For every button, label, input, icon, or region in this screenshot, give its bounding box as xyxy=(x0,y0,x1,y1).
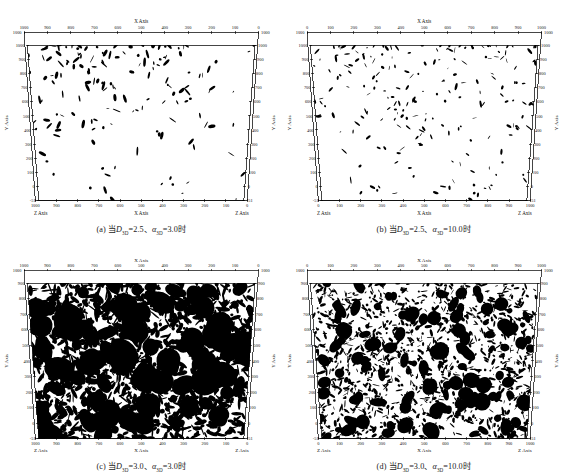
svg-text:700: 700 xyxy=(20,311,27,316)
svg-text:700: 700 xyxy=(467,263,474,268)
svg-text:100: 100 xyxy=(27,170,34,175)
svg-text:600: 600 xyxy=(115,263,122,268)
svg-text:800: 800 xyxy=(484,440,491,445)
svg-text:200: 200 xyxy=(202,203,209,208)
svg-text:100: 100 xyxy=(27,405,34,410)
svg-text:Y Axis: Y Axis xyxy=(270,115,276,130)
svg-text:700: 700 xyxy=(91,263,98,268)
svg-text:-51: -51 xyxy=(529,436,535,441)
svg-text:500: 500 xyxy=(138,263,145,268)
svg-text:1000: 1000 xyxy=(541,43,550,48)
svg-text:1000: 1000 xyxy=(261,30,270,35)
svg-text:Y Axis: Y Axis xyxy=(271,353,276,367)
plot-b: 01002003004005006007008009001000X Axis01… xyxy=(283,0,565,238)
panel-caption-b: (b) 当D3D=2.5、α3D=10.0时 xyxy=(283,222,565,236)
svg-text:700: 700 xyxy=(538,85,545,90)
svg-text:300: 300 xyxy=(533,142,540,147)
svg-text:X Axis: X Axis xyxy=(134,18,148,24)
svg-text:500: 500 xyxy=(253,113,260,118)
svg-text:X Axis: X Axis xyxy=(417,210,431,216)
svg-text:0: 0 xyxy=(317,440,320,445)
svg-text:Z Axis: Z Axis xyxy=(518,210,531,216)
svg-text:100: 100 xyxy=(249,170,256,175)
svg-text:100: 100 xyxy=(249,405,256,410)
svg-text:-51: -51 xyxy=(30,436,36,441)
svg-text:500: 500 xyxy=(305,342,312,347)
svg-text:700: 700 xyxy=(91,25,98,30)
svg-text:X Axis: X Axis xyxy=(417,18,431,24)
svg-text:X Axis: X Axis xyxy=(134,257,148,262)
svg-text:400: 400 xyxy=(306,128,313,133)
svg-text:400: 400 xyxy=(159,440,166,445)
panel-c: 10009008007006005004003002001000X Axis10… xyxy=(0,238,283,475)
svg-text:400: 400 xyxy=(161,263,168,268)
svg-text:200: 200 xyxy=(208,25,215,30)
svg-text:0: 0 xyxy=(246,440,249,445)
svg-text:400: 400 xyxy=(252,358,259,363)
svg-text:800: 800 xyxy=(539,296,546,301)
svg-text:800: 800 xyxy=(539,71,546,76)
svg-text:800: 800 xyxy=(484,203,491,208)
svg-text:700: 700 xyxy=(303,311,310,316)
svg-text:1000: 1000 xyxy=(543,30,552,35)
svg-text:X Axis: X Axis xyxy=(134,210,148,216)
svg-text:400: 400 xyxy=(397,263,404,268)
svg-text:300: 300 xyxy=(307,374,314,379)
svg-text:Y Axis: Y Axis xyxy=(286,353,291,367)
svg-text:600: 600 xyxy=(255,327,262,332)
svg-text:400: 400 xyxy=(24,128,31,133)
svg-text:1000: 1000 xyxy=(16,43,25,48)
svg-text:0: 0 xyxy=(305,263,308,268)
svg-text:Z Axis: Z Axis xyxy=(316,447,330,452)
svg-text:800: 800 xyxy=(301,296,308,301)
svg-text:Z Axis: Z Axis xyxy=(235,447,249,452)
svg-text:900: 900 xyxy=(505,203,512,208)
svg-text:200: 200 xyxy=(350,263,357,268)
svg-text:700: 700 xyxy=(256,311,263,316)
svg-text:400: 400 xyxy=(159,203,166,208)
svg-text:0: 0 xyxy=(317,203,320,208)
svg-text:1000: 1000 xyxy=(258,43,267,48)
svg-text:-51: -51 xyxy=(247,436,253,441)
svg-text:600: 600 xyxy=(444,25,451,30)
svg-text:200: 200 xyxy=(533,389,540,394)
svg-text:0: 0 xyxy=(305,25,308,30)
svg-text:500: 500 xyxy=(305,113,312,118)
svg-text:600: 600 xyxy=(304,327,311,332)
svg-text:1000: 1000 xyxy=(525,440,535,445)
svg-text:1000: 1000 xyxy=(261,267,271,272)
svg-text:300: 300 xyxy=(251,374,258,379)
svg-text:900: 900 xyxy=(258,280,265,285)
svg-text:200: 200 xyxy=(26,389,33,394)
plot-svg-c: 10009008007006005004003002001000X Axis10… xyxy=(0,238,283,475)
svg-text:100: 100 xyxy=(309,405,316,410)
svg-text:300: 300 xyxy=(378,440,385,445)
svg-text:1000: 1000 xyxy=(13,30,22,35)
svg-text:Z Axis: Z Axis xyxy=(235,210,248,216)
svg-text:100: 100 xyxy=(336,440,343,445)
svg-text:600: 600 xyxy=(304,99,311,104)
svg-text:300: 300 xyxy=(25,142,32,147)
svg-text:200: 200 xyxy=(357,440,364,445)
svg-text:300: 300 xyxy=(180,203,187,208)
svg-text:700: 700 xyxy=(463,203,470,208)
caption-text-a: (a) 当D3D=2.5、α3D=3.0时 xyxy=(96,225,186,234)
plot-svg-a: 10009008007006005004003002001000X Axis10… xyxy=(0,0,283,238)
svg-text:700: 700 xyxy=(21,85,28,90)
plot-svg-d: 01002003004005006007008009001000X Axis01… xyxy=(283,238,565,475)
svg-text:100: 100 xyxy=(327,263,334,268)
svg-text:600: 600 xyxy=(444,263,451,268)
svg-text:1000: 1000 xyxy=(13,267,23,272)
svg-text:X Axis: X Axis xyxy=(417,257,431,262)
svg-text:0: 0 xyxy=(248,420,251,425)
svg-text:800: 800 xyxy=(19,296,26,301)
caption-text-b: (b) 当D3D=2.5、α3D=10.0时 xyxy=(377,225,471,234)
svg-text:600: 600 xyxy=(115,25,122,30)
panel-d: 01002003004005006007008009001000X Axis01… xyxy=(283,238,565,475)
svg-text:900: 900 xyxy=(44,263,51,268)
svg-text:400: 400 xyxy=(306,358,313,363)
svg-text:100: 100 xyxy=(531,170,538,175)
svg-text:700: 700 xyxy=(303,85,310,90)
svg-text:-51: -51 xyxy=(312,198,319,203)
caption-text-c: (c) 当D3D=3.0、α3D=3.0时 xyxy=(96,462,186,471)
